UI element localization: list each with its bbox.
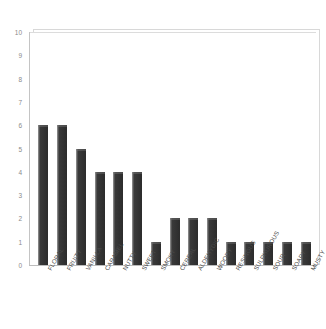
- x-axis-category-label: FLORAL: [46, 246, 65, 271]
- x-axis-category-label: CEREAL: [178, 246, 197, 272]
- x-axis-category-label: MUSTY: [309, 249, 326, 272]
- x-axis-category-label: SMOKY: [159, 248, 177, 272]
- bar-chart: 012345678910 FLORALFRUITYVANILLACARAMELN…: [0, 0, 326, 329]
- x-axis-category-labels: FLORALFRUITYVANILLACARAMELNUTTYSWEETSMOK…: [0, 0, 326, 329]
- x-axis-category-label: SOUR: [271, 252, 286, 272]
- x-axis-category-label: SWEET: [140, 248, 157, 271]
- x-axis-category-label: FRUITY: [65, 248, 83, 272]
- x-axis-category-label: VANILLA: [84, 245, 103, 271]
- x-axis-category-label: NUTTY: [121, 249, 138, 271]
- x-axis-category-label: WOODY: [215, 247, 233, 272]
- x-axis-category-label: SOAPY: [290, 249, 307, 272]
